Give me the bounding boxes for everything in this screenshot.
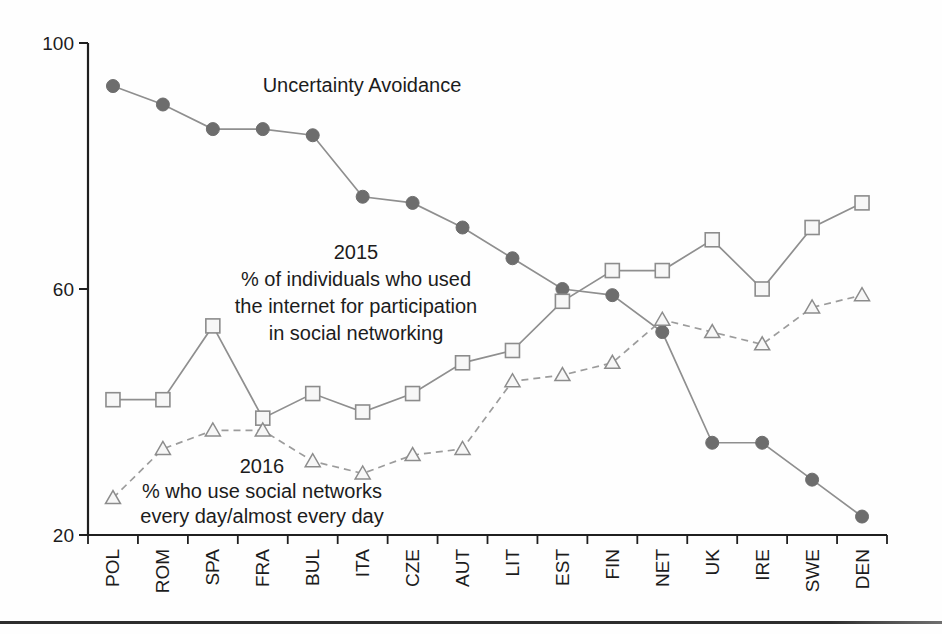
x-tick-label-ire: IRE — [752, 549, 773, 581]
chart-figure: 1006020POLROMSPAFRABULITACZEAUTLITESTFIN… — [0, 0, 942, 634]
x-tick-label-fin: FIN — [602, 549, 623, 580]
data-point-circle — [706, 436, 719, 449]
data-point-circle — [656, 326, 669, 339]
x-tick-label-rom: ROM — [152, 549, 173, 593]
data-point-circle — [456, 221, 469, 234]
series-line-1 — [113, 203, 862, 418]
series-label-uncertainty-avoidance: Uncertainty Avoidance — [263, 72, 462, 98]
data-point-circle — [306, 129, 319, 142]
y-tick-label-20: 20 — [53, 525, 74, 546]
data-point-square — [156, 393, 170, 407]
x-tick-label-swe: SWE — [802, 549, 823, 592]
data-point-circle — [606, 289, 619, 302]
x-tick-label-spa: SPA — [202, 549, 223, 586]
data-point-square — [555, 294, 569, 308]
x-tick-label-est: EST — [552, 549, 573, 586]
data-point-circle — [206, 123, 219, 136]
x-tick-label-fra: FRA — [252, 549, 273, 587]
data-point-square — [306, 387, 320, 401]
data-point-square — [655, 264, 669, 278]
data-point-square — [505, 344, 519, 358]
x-tick-label-bul: BUL — [302, 549, 323, 586]
x-tick-label-cze: CZE — [402, 549, 423, 587]
data-point-circle — [856, 510, 869, 523]
x-tick-label-aut: AUT — [452, 549, 473, 587]
data-point-square — [755, 282, 769, 296]
x-tick-label-den: DEN — [852, 549, 873, 589]
data-point-square — [356, 405, 370, 419]
data-point-circle — [156, 98, 169, 111]
data-point-square — [456, 356, 470, 370]
data-point-triangle — [205, 423, 220, 436]
x-tick-label-ita: ITA — [352, 549, 373, 577]
series-label-2015: 2015 % of individuals who used the inter… — [235, 239, 477, 347]
data-point-square — [705, 233, 719, 247]
x-tick-label-uk: UK — [702, 549, 723, 576]
data-point-square — [855, 196, 869, 210]
data-point-circle — [256, 123, 269, 136]
data-point-triangle — [505, 374, 520, 387]
data-point-circle — [506, 252, 519, 265]
data-point-circle — [756, 436, 769, 449]
data-point-square — [206, 319, 220, 333]
series-line-0 — [113, 86, 862, 517]
x-tick-label-lit: LIT — [502, 549, 523, 577]
y-tick-label-60: 60 — [53, 279, 74, 300]
x-tick-label-pol: POL — [102, 549, 123, 587]
data-point-triangle — [155, 441, 170, 454]
data-point-square — [605, 264, 619, 278]
y-tick-label-100: 100 — [42, 33, 74, 54]
data-point-circle — [406, 196, 419, 209]
series-layer — [113, 86, 862, 517]
data-point-square — [106, 393, 120, 407]
data-point-triangle — [555, 368, 570, 381]
x-tick-label-net: NET — [652, 549, 673, 587]
series-label-2016: 2016 % who use social networks every day… — [140, 454, 383, 529]
data-point-square — [406, 387, 420, 401]
data-point-triangle — [455, 441, 470, 454]
data-point-circle — [806, 473, 819, 486]
data-point-square — [805, 221, 819, 235]
data-point-circle — [356, 190, 369, 203]
data-point-triangle — [105, 491, 120, 504]
data-point-triangle — [655, 312, 670, 325]
data-point-triangle — [855, 288, 870, 301]
data-point-circle — [106, 80, 119, 93]
bottom-rule — [0, 621, 942, 624]
